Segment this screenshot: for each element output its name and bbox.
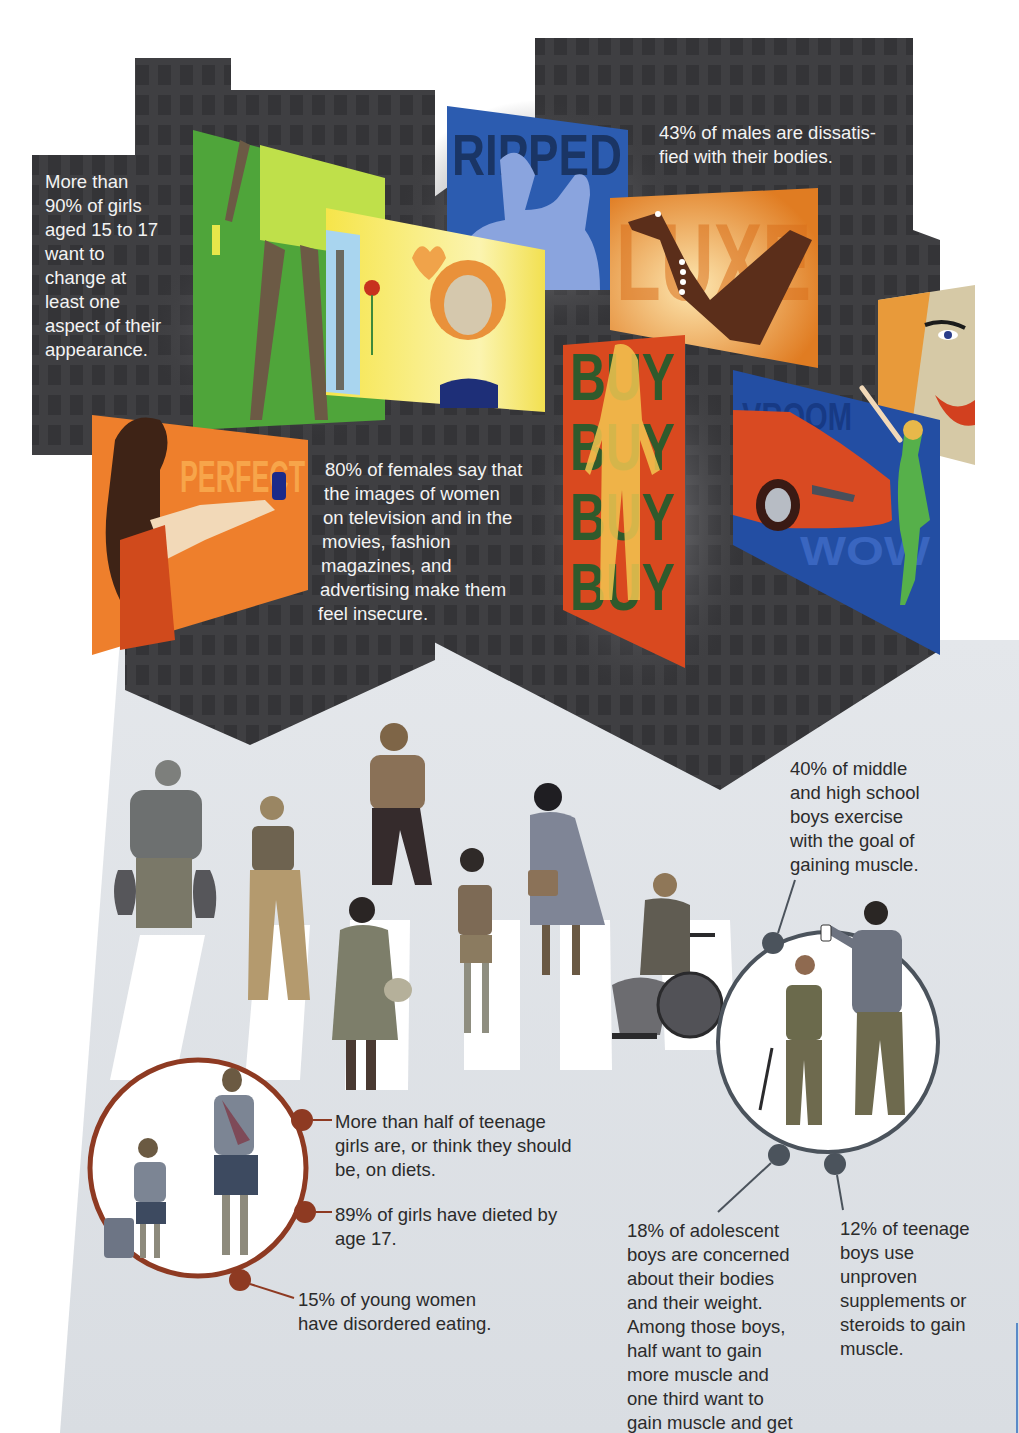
stat-line: boys exercise (790, 805, 920, 829)
stat-line: Among those boys, (627, 1315, 793, 1339)
stat-boys-exercise: 40% of middle and high school boys exerc… (790, 757, 920, 877)
stat-line: least one (45, 290, 161, 314)
stat-line: 15% of young women (298, 1288, 491, 1312)
stat-line: 40% of middle (790, 757, 920, 781)
stat-line: advertising make them (320, 578, 522, 602)
stat-line: boys use (840, 1241, 970, 1265)
stat-line: unproven (840, 1265, 970, 1289)
svg-text:BUY: BUY (570, 550, 675, 624)
stat-line: on television and in the (323, 506, 522, 530)
stat-line: half want to gain (627, 1339, 793, 1363)
stat-line: about their bodies (627, 1267, 793, 1291)
stat-line: More than (45, 170, 161, 194)
stat-line: 80% of females say that (325, 458, 522, 482)
stat-females-insecure: 80% of females say that the images of wo… (320, 458, 522, 626)
stat-line: girls are, or think they should (335, 1134, 572, 1158)
stat-line: more muscle and (627, 1363, 793, 1387)
stat-line: appearance. (45, 338, 161, 362)
stat-line: the images of women (324, 482, 522, 506)
stat-line: one third want to (627, 1387, 793, 1411)
stat-line: muscle. (840, 1337, 970, 1361)
stat-line: want to (45, 242, 161, 266)
stat-boys-supplements: 12% of teenage boys use unproven supplem… (840, 1217, 970, 1361)
stat-girls-change-appearance: More than 90% of girls aged 15 to 17 wan… (45, 170, 161, 362)
stat-line: age 17. (335, 1227, 557, 1251)
stat-line: be, on diets. (335, 1158, 572, 1182)
stat-line: magazines, and (321, 554, 522, 578)
stat-line: 12% of teenage (840, 1217, 970, 1241)
stat-line: have disordered eating. (298, 1312, 491, 1336)
stat-line: aspect of their (45, 314, 161, 338)
stat-line: 43% of males are dissatis- (659, 121, 876, 145)
stat-line: More than half of teenage (335, 1110, 572, 1134)
stat-line: 89% of girls have dieted by (335, 1203, 557, 1227)
stat-line: gaining muscle. (790, 853, 920, 877)
svg-text:PERFECT: PERFECT (180, 452, 305, 501)
billboard-buy: BUY BUY BUY BUY (563, 335, 685, 668)
stat-girls-diets: More than half of teenage girls are, or … (335, 1110, 572, 1182)
stat-line: and high school (790, 781, 920, 805)
stat-line: feel insecure. (318, 602, 522, 626)
stat-disordered-eating: 15% of young women have disordered eatin… (298, 1288, 491, 1336)
stat-boys-concerned: 18% of adolescent boys are concerned abo… (627, 1219, 793, 1433)
stat-line: boys are concerned (627, 1243, 793, 1267)
stat-line: movies, fashion (322, 530, 522, 554)
stat-line: fied with their bodies. (659, 145, 876, 169)
stat-line: gain muscle and get (627, 1411, 793, 1433)
stat-line: 90% of girls (45, 194, 161, 218)
svg-text:RIPPED: RIPPED (452, 122, 622, 187)
stat-girls-dieted: 89% of girls have dieted by age 17. (335, 1203, 557, 1251)
stat-line: with the goal of (790, 829, 920, 853)
stat-males-dissatisfied: 43% of males are dissatis- fied with the… (659, 121, 876, 169)
stat-line: change at (45, 266, 161, 290)
stat-line: aged 15 to 17 (45, 218, 161, 242)
stat-line: supplements or (840, 1289, 970, 1313)
stat-line: steroids to gain (840, 1313, 970, 1337)
stat-line: 18% of adolescent (627, 1219, 793, 1243)
stat-line: and their weight. (627, 1291, 793, 1315)
